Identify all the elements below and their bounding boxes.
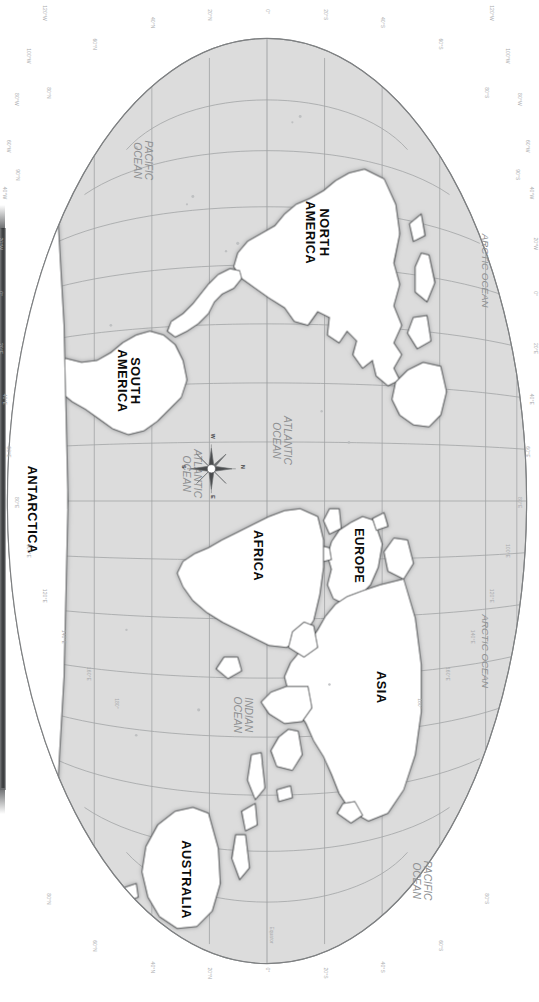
lon-bot-e80: 80°E <box>14 497 20 508</box>
lon-bot-w100: 100°W <box>26 48 32 63</box>
lat-left-equator-value: 0° <box>265 9 271 14</box>
lat-right-60s: 60°S <box>438 940 444 951</box>
lat-right-80n: 80°N <box>46 893 52 905</box>
label-indian-line1: INDIAN <box>242 675 253 755</box>
label-australia: AUSTRALIA <box>179 821 193 938</box>
lon-bot-w20: 20°W <box>0 238 4 251</box>
label-africa: AFRICA <box>251 515 265 597</box>
label-pacific-east-line2: OCEAN <box>411 839 422 923</box>
lon-top-e60: 60°E <box>525 446 531 457</box>
compass-label-east: E <box>210 495 216 499</box>
lon-bot-e140: 140°E <box>61 630 67 644</box>
lon-top-e140: 140°E <box>470 630 476 644</box>
compass-rose-icon <box>185 442 238 495</box>
compass-rose: N E S W <box>185 442 238 495</box>
label-europe: EUROPE <box>351 515 364 597</box>
label-north-america: NORTH AMERICA <box>303 189 330 277</box>
map-graphic <box>4 33 531 970</box>
label-south-america: SOUTH AMERICA <box>115 337 142 425</box>
lat-left-80n: 80°N <box>46 87 52 99</box>
label-arctic-ocean-east: ARCTIC OCEAN <box>479 593 490 710</box>
label-atlantic-north-line1: ATLANTIC <box>281 396 292 486</box>
label-atlantic-north-line2: OCEAN <box>270 396 281 486</box>
lon-top-w60: 60°W <box>525 140 531 153</box>
label-indian-ocean: INDIAN OCEAN <box>231 675 253 755</box>
lon-bot-e120: 120°E <box>42 589 48 603</box>
lon-bot-e60: 60°E <box>6 446 12 457</box>
lon-bot-180: 180° <box>114 698 120 709</box>
compass-label-south: S <box>181 465 187 469</box>
label-atlantic-ocean-north: ATLANTIC OCEAN <box>270 396 292 486</box>
lat-left-60n: 60°N <box>92 38 98 50</box>
label-pacific-ocean-east: PACIFIC OCEAN <box>411 839 433 923</box>
label-south-america-line2: AMERICA <box>115 337 129 425</box>
lat-right-60n: 60°N <box>92 940 98 952</box>
lon-top-e20: 20°E <box>533 343 539 354</box>
lon-top-e40: 40°E <box>530 394 536 405</box>
label-south-america-line1: SOUTH <box>128 337 142 425</box>
map-canvas: NORTH AMERICA SOUTH AMERICA EUROPE AFRIC… <box>4 33 531 970</box>
lon-top-180: 180° <box>417 698 423 709</box>
lon-top-w40: 40°W <box>530 187 536 200</box>
label-pacific-ocean-west: PACIFIC OCEAN <box>132 118 154 202</box>
lat-left-40s: 40°S <box>380 17 386 28</box>
lon-bot-e20: 20°E <box>0 343 4 354</box>
lat-right-40n: 40°N <box>150 962 156 974</box>
lon-top-0: 0° <box>533 291 539 296</box>
lat-left-80s: 80°S <box>484 87 490 98</box>
lon-top-w80: 80°W <box>517 93 523 106</box>
lon-bot-w40: 40°W <box>2 187 8 200</box>
label-arctic-ocean-west: ARCTIC OCEAN <box>479 212 490 329</box>
label-pacific-west-line2: OCEAN <box>132 118 143 202</box>
lon-bot-w80: 80°W <box>14 93 20 106</box>
lat-right-20s: 20°S <box>323 967 329 978</box>
lon-top-e100: 100°E <box>505 544 511 558</box>
label-north-america-line2: AMERICA <box>303 189 317 277</box>
lon-top-e120: 120°E <box>490 589 496 603</box>
lon-top-w100: 100°W <box>505 48 511 63</box>
label-north-america-line1: NORTH <box>317 189 331 277</box>
label-pacific-east-line1: PACIFIC <box>422 839 433 923</box>
label-antarctica: ANTARCTICA <box>25 437 39 583</box>
lat-right-20n: 20°N <box>207 967 213 979</box>
compass-label-west: W <box>210 434 216 439</box>
lat-left-60s: 60°S <box>438 38 444 49</box>
lat-right-equator-value: 0° <box>265 967 271 972</box>
lat-right-40s: 40°S <box>380 962 386 973</box>
label-pacific-west-line1: PACIFIC <box>143 118 154 202</box>
label-asia: ASIA <box>374 653 388 721</box>
compass-label-north: N <box>240 465 246 469</box>
label-indian-line2: OCEAN <box>231 675 242 755</box>
lat-left-40n: 40°N <box>150 17 156 29</box>
lon-bot-e160: 160°E <box>86 667 92 681</box>
lon-bot-w120: 120°W <box>42 5 48 20</box>
lat-left-90s: 90°S <box>515 169 521 180</box>
lat-right-80s: 80°S <box>484 893 490 904</box>
land-new-zealand-1 <box>160 940 181 960</box>
lon-top-w120: 120°W <box>490 5 496 20</box>
lon-bot-0: 0° <box>0 291 4 296</box>
lon-top-e160: 160°E <box>445 667 451 681</box>
lon-top-e80: 80°E <box>517 497 523 508</box>
lon-bot-e40: 40°E <box>2 394 8 405</box>
lon-bot-e100: 100°E <box>26 544 32 558</box>
lat-left-90n: 90°N <box>15 169 21 181</box>
lat-left-20n: 20°N <box>207 9 213 21</box>
lat-right-equator-label: Equator <box>269 926 275 943</box>
lon-top-w20: 20°W <box>533 238 539 251</box>
lon-bot-w60: 60°W <box>6 140 12 153</box>
lat-left-20s: 20°S <box>323 9 329 20</box>
